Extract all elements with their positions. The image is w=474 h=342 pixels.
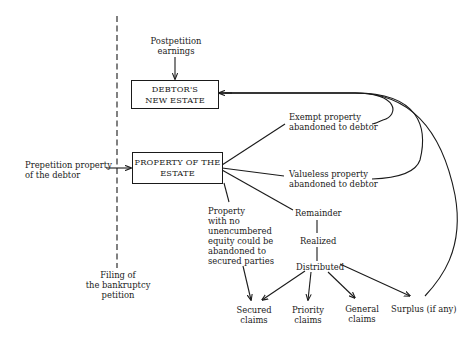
no-equity-property-label: Property with no unencumbered equity cou… [208, 206, 274, 266]
property-of-estate-box: PROPERTY OF THE ESTATE [132, 152, 223, 184]
property-of-estate-label: PROPERTY OF THE ESTATE [135, 157, 221, 179]
filing-petition-label: Filing of the bankruptcy petition [84, 270, 152, 300]
bankruptcy-estate-diagram: DEBTOR'S NEW ESTATE PROPERTY OF THE ESTA… [0, 0, 474, 342]
valueless-property-label: Valueless property abandoned to debtor [289, 169, 378, 189]
prepetition-property-label: Prepetition property of the debtor [25, 160, 112, 180]
surplus-label: Surplus (if any) [391, 304, 457, 314]
debtors-new-estate-box: DEBTOR'S NEW ESTATE [131, 80, 219, 109]
general-claims-label: General claims [342, 304, 382, 324]
realized-label: Realized [300, 236, 336, 246]
distributed-label: Distributed [296, 262, 344, 272]
secured-claims-label: Secured claims [233, 305, 275, 325]
exempt-property-label: Exempt property abandoned to debtor [289, 112, 378, 132]
priority-claims-label: Priority claims [288, 305, 328, 325]
remainder-label: Remainder [295, 208, 342, 218]
postpetition-earnings-label: Postpetition earnings [148, 36, 204, 56]
new-estate-label: DEBTOR'S NEW ESTATE [145, 84, 205, 106]
